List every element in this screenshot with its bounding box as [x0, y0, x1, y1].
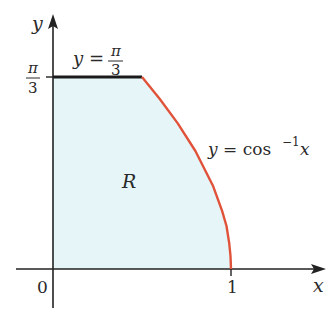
label-arccos-curve: y = cos −1 x: [207, 135, 310, 159]
label-horizontal-line-denominator: 3: [111, 61, 121, 79]
origin-label: 0: [37, 277, 48, 297]
x-axis-label: x: [313, 274, 324, 296]
label-horizontal-line: y = π 3: [72, 42, 123, 79]
label-horizontal-line-numerator: π: [110, 42, 122, 60]
y-axis-label: y: [31, 12, 43, 34]
region-r-fill: [53, 77, 231, 269]
y-tick-label-pi-over-3: π 3: [26, 59, 40, 97]
region-label: R: [121, 170, 136, 192]
diagram-canvas: y x 0 1 π 3 y = π 3 y = cos −1 x R: [0, 0, 334, 315]
label-arccos-superscript: −1: [282, 135, 300, 149]
label-arccos-lhs: y = cos: [207, 139, 271, 159]
x-tick-label-1: 1: [227, 277, 238, 297]
y-tick-label-numerator: π: [27, 59, 39, 77]
region-diagram: y x 0 1 π 3 y = π 3 y = cos −1 x R: [0, 0, 334, 315]
label-horizontal-line-lhs: y =: [72, 48, 104, 69]
y-tick-label-denominator: 3: [28, 79, 38, 97]
label-arccos-rhs: x: [300, 139, 310, 159]
